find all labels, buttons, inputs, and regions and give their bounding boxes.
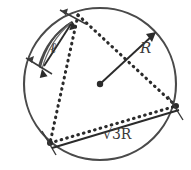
- radius-label: R: [140, 41, 151, 56]
- chord-length-label: ℓ: [50, 41, 56, 56]
- center-point-dot: [97, 81, 103, 87]
- geometry-figure: Circle with inscribed dotted triangle, r…: [0, 0, 191, 170]
- side-length-label-text: √3R: [101, 127, 131, 141]
- geometry-canvas: [0, 0, 191, 170]
- side-length-label: √3R: [101, 127, 131, 141]
- triangle-side-top-right: [78, 15, 176, 106]
- bottom-left-tick-upper: [42, 131, 56, 155]
- right-tick: [168, 96, 183, 120]
- bottom-left-vertex-ticks: [42, 131, 56, 155]
- right-vertex-ticks: [168, 96, 183, 120]
